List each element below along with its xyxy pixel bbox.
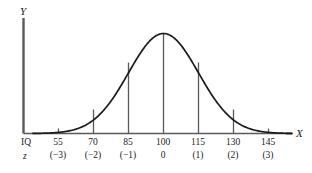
z-tick-label-4: (1) xyxy=(192,151,203,161)
iq-tick-label-5: 130 xyxy=(226,138,240,148)
y-axis-label: Y xyxy=(20,6,26,17)
z-tick-label-0: (−3) xyxy=(50,151,66,161)
normal-distribution-figure: Y X IQ z 55 70 85 100 115 130 145 (−3) (… xyxy=(0,0,312,173)
z-row-label: z xyxy=(23,152,27,162)
iq-tick-label-2: 85 xyxy=(123,138,133,148)
iq-tick-label-6: 145 xyxy=(261,138,275,148)
iq-tick-label-0: 55 xyxy=(53,138,63,148)
z-tick-label-1: (−2) xyxy=(85,151,101,161)
z-tick-label-3: 0 xyxy=(161,151,166,161)
iq-tick-label-1: 70 xyxy=(88,138,98,148)
bell-curve-path xyxy=(33,34,292,134)
iq-row-label: IQ xyxy=(21,138,31,148)
z-tick-label-2: (−1) xyxy=(120,151,136,161)
iq-tick-label-3: 100 xyxy=(156,138,170,148)
iq-tick-label-4: 115 xyxy=(191,138,205,148)
z-tick-label-5: (2) xyxy=(227,151,238,161)
x-axis-label: X xyxy=(296,128,303,139)
z-tick-label-6: (3) xyxy=(262,151,273,161)
